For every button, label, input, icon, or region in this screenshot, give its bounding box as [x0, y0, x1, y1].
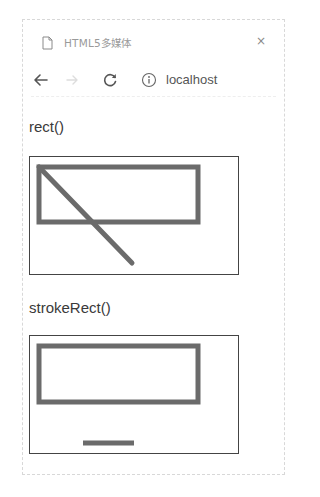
- close-tab-button[interactable]: ×: [256, 33, 266, 49]
- forward-button[interactable]: [63, 70, 83, 90]
- rect-drawing: [30, 157, 238, 274]
- navigation-bar: localhost: [23, 66, 284, 96]
- section-label-strokerect: strokeRect(): [29, 299, 111, 316]
- tab-title[interactable]: HTML5多媒体: [64, 35, 132, 50]
- document-icon: [42, 35, 53, 49]
- strokerect-drawing: [30, 336, 238, 453]
- site-info-button[interactable]: [139, 70, 159, 90]
- back-button[interactable]: [31, 70, 51, 90]
- reload-button[interactable]: [100, 70, 120, 90]
- drawn-rectangle: [39, 346, 198, 402]
- tab-bar: HTML5多媒体 ×: [23, 20, 284, 62]
- reload-icon: [100, 70, 120, 90]
- drawn-diagonal-line: [39, 167, 132, 263]
- address-bar[interactable]: localhost: [166, 72, 217, 87]
- toolbar-divider: [31, 96, 276, 97]
- canvas-strokerect: [29, 335, 239, 454]
- info-icon: [139, 70, 159, 90]
- canvas-rect: [29, 156, 239, 275]
- arrow-right-icon: [63, 70, 83, 90]
- arrow-left-icon: [31, 70, 51, 90]
- browser-window: HTML5多媒体 × localhost: [22, 19, 285, 475]
- section-label-rect: rect(): [29, 118, 64, 135]
